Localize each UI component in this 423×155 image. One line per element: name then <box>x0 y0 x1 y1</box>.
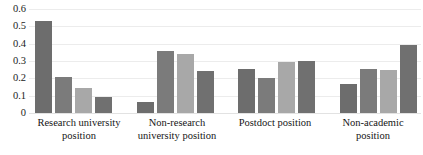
y-axis-tick-label: 0.5 <box>0 21 26 32</box>
bar <box>95 97 112 113</box>
y-axis-tick-label: 0.3 <box>0 56 26 67</box>
bar <box>238 69 255 113</box>
x-axis-category-label: Non-research university position <box>131 116 223 152</box>
bar <box>137 102 154 113</box>
bar <box>340 84 357 113</box>
axis-baseline <box>29 113 421 114</box>
bar <box>258 78 275 113</box>
bar-group <box>340 9 417 113</box>
bar <box>298 61 315 113</box>
bar <box>157 51 174 113</box>
bar <box>55 77 72 113</box>
y-axis: 0.60.50.40.30.20.10 <box>0 9 26 113</box>
plot-area <box>29 9 421 113</box>
bar <box>400 45 417 113</box>
bar-group <box>238 9 315 113</box>
y-axis-tick-label: 0.6 <box>0 4 26 15</box>
bar <box>35 21 52 113</box>
y-axis-tick-label: 0.4 <box>0 38 26 49</box>
bar-group <box>137 9 214 113</box>
y-axis-tick-label: 0.1 <box>0 90 26 101</box>
bar <box>177 54 194 113</box>
x-axis-category-label: Postdoct position <box>229 116 321 152</box>
bar-group <box>35 9 112 113</box>
x-axis-category-label: Research university position <box>33 116 125 152</box>
bar <box>380 70 397 113</box>
bar <box>360 69 377 113</box>
x-axis-category-labels: Research university positionNon-research… <box>29 116 421 152</box>
y-axis-tick-label: 0.2 <box>0 73 26 84</box>
bar <box>278 62 295 113</box>
x-axis-category-label: Non-academic position <box>327 116 419 152</box>
bars-layer <box>29 9 421 113</box>
bar-chart: 0.60.50.40.30.20.10 Research university … <box>0 0 423 155</box>
y-axis-tick-label: 0 <box>0 108 26 119</box>
bar <box>75 88 92 113</box>
bar <box>197 71 214 113</box>
